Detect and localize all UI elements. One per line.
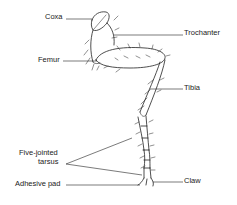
label-trochanter: Trochanter bbox=[184, 29, 220, 37]
label-adhesive-pad: Adhesive pad bbox=[15, 180, 60, 188]
tarsus-leader-upper bbox=[66, 138, 132, 164]
coxa-segment bbox=[91, 12, 109, 31]
label-femur: Femur bbox=[38, 56, 60, 64]
tarsus-leader-lower bbox=[66, 164, 142, 175]
label-tibia: Tibia bbox=[184, 84, 200, 92]
label-tarsus-line1: Five-jointed bbox=[19, 149, 58, 157]
femur-segment bbox=[96, 48, 165, 69]
tibia-segment bbox=[140, 60, 165, 115]
claw bbox=[138, 178, 153, 186]
label-claw: Claw bbox=[184, 177, 201, 185]
label-coxa: Coxa bbox=[45, 13, 63, 21]
tarsus-segments bbox=[138, 116, 151, 178]
label-tarsus-line2: tarsus bbox=[38, 158, 58, 166]
